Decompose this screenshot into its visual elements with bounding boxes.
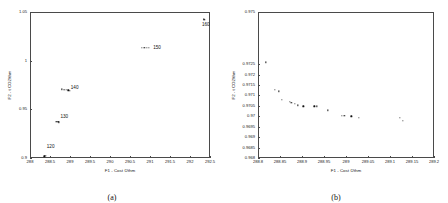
x-tick-label: 289.2 bbox=[429, 160, 439, 164]
x-tick-label: 289.5 bbox=[85, 160, 95, 164]
y-tick-label: 0.9725 bbox=[242, 62, 255, 66]
x-tick-mark bbox=[346, 156, 347, 158]
y-tick-mark bbox=[30, 109, 32, 110]
cluster-label: 120 bbox=[47, 145, 55, 150]
cluster-label: 150 bbox=[153, 46, 161, 51]
y-tick-label: 0.971 bbox=[245, 93, 255, 97]
y-tick-mark bbox=[258, 127, 260, 128]
caption-a: (a) bbox=[0, 193, 224, 202]
y-tick-mark bbox=[258, 12, 260, 13]
y-tick-mark bbox=[258, 85, 260, 86]
x-tick-mark bbox=[190, 156, 191, 158]
y-tick-label: 0.9685 bbox=[242, 146, 255, 150]
y-tick-label: 1.05 bbox=[19, 10, 27, 14]
x-tick-label: 292.5 bbox=[205, 160, 215, 164]
y-tick-label: 0.95 bbox=[19, 107, 27, 111]
x-tick-label: 288.95 bbox=[318, 160, 331, 164]
x-tick-label: 289 bbox=[343, 160, 350, 164]
x-axis-label-b: F1 - Cost €/thm bbox=[331, 169, 361, 173]
x-tick-mark bbox=[150, 156, 151, 158]
y-axis-label-b: F2 - t CO2/thm bbox=[232, 70, 236, 99]
x-tick-mark bbox=[110, 156, 111, 158]
x-tick-mark bbox=[70, 156, 71, 158]
y-tick-mark bbox=[258, 137, 260, 138]
cluster-label: 160 bbox=[202, 23, 210, 28]
plot-area-a bbox=[30, 12, 210, 158]
y-tick-label: 0.968 bbox=[245, 156, 255, 160]
x-tick-label: 291 bbox=[147, 160, 154, 164]
y-tick-mark bbox=[258, 148, 260, 149]
x-tick-mark bbox=[280, 156, 281, 158]
y-tick-mark bbox=[258, 75, 260, 76]
x-tick-mark bbox=[170, 156, 171, 158]
cluster-label: 140 bbox=[71, 86, 79, 91]
x-tick-mark bbox=[130, 156, 131, 158]
x-tick-label: 288.5 bbox=[45, 160, 55, 164]
x-tick-label: 288.8 bbox=[253, 160, 263, 164]
x-tick-mark bbox=[324, 156, 325, 158]
y-tick-mark bbox=[258, 158, 260, 159]
x-tick-label: 288.9 bbox=[297, 160, 307, 164]
x-tick-label: 291.5 bbox=[165, 160, 175, 164]
panel-a: F1 - Cost €/thm F2 - t CO2/thm (a) 28828… bbox=[0, 0, 224, 203]
x-tick-label: 289.05 bbox=[362, 160, 375, 164]
y-tick-mark bbox=[258, 106, 260, 107]
y-tick-mark bbox=[258, 64, 260, 65]
x-tick-label: 289 bbox=[67, 160, 74, 164]
x-tick-label: 288 bbox=[27, 160, 34, 164]
x-tick-mark bbox=[390, 156, 391, 158]
x-tick-mark bbox=[434, 156, 435, 158]
y-tick-mark bbox=[258, 95, 260, 96]
x-tick-mark bbox=[50, 156, 51, 158]
x-tick-label: 288.85 bbox=[274, 160, 287, 164]
y-tick-label: 0.9695 bbox=[242, 125, 255, 129]
y-tick-mark bbox=[258, 116, 260, 117]
y-tick-label: 0.975 bbox=[245, 10, 255, 14]
x-tick-mark bbox=[302, 156, 303, 158]
panel-b: F1 - Cost €/thm F2 - t CO2/thm (b) 288.8… bbox=[224, 0, 448, 203]
plot-area-b bbox=[258, 12, 434, 158]
y-tick-mark bbox=[30, 158, 32, 159]
y-tick-label: 0.9 bbox=[21, 156, 27, 160]
x-tick-label: 289.1 bbox=[385, 160, 395, 164]
y-tick-label: 0.972 bbox=[245, 73, 255, 77]
x-tick-label: 289.15 bbox=[406, 160, 419, 164]
y-tick-mark bbox=[30, 12, 32, 13]
y-tick-label: 0.97 bbox=[247, 114, 255, 118]
x-tick-mark bbox=[412, 156, 413, 158]
pareto-front-figure: F1 - Cost €/thm F2 - t CO2/thm (a) 28828… bbox=[0, 0, 448, 203]
x-tick-mark bbox=[368, 156, 369, 158]
x-tick-mark bbox=[210, 156, 211, 158]
y-tick-label: 0.9715 bbox=[242, 83, 255, 87]
x-tick-mark bbox=[90, 156, 91, 158]
x-tick-label: 290.5 bbox=[125, 160, 135, 164]
caption-b: (b) bbox=[224, 193, 448, 202]
y-axis-label-a: F2 - t CO2/thm bbox=[8, 70, 12, 99]
y-tick-mark bbox=[30, 61, 32, 62]
cluster-label: 130 bbox=[60, 114, 68, 119]
y-tick-label: 1 bbox=[25, 59, 27, 63]
y-tick-label: 0.969 bbox=[245, 135, 255, 139]
y-tick-label: 0.9705 bbox=[242, 104, 255, 108]
x-tick-label: 292 bbox=[187, 160, 194, 164]
x-axis-label-a: F1 - Cost €/thm bbox=[105, 169, 135, 173]
x-tick-label: 290 bbox=[107, 160, 114, 164]
